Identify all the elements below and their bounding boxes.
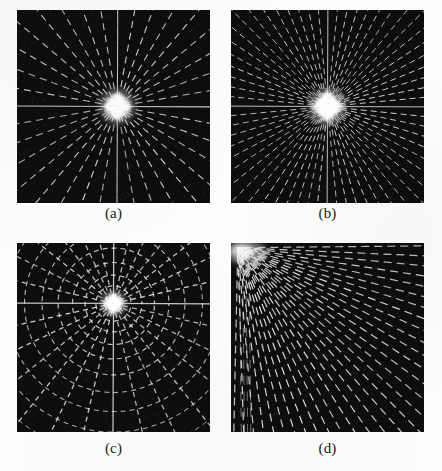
panel-a xyxy=(17,10,210,203)
panel-d-image xyxy=(231,243,424,432)
panel-b-image xyxy=(231,10,424,203)
panel-b-caption: (b) xyxy=(231,205,424,222)
panel-c-image xyxy=(17,243,210,432)
figure-container: (a) (b) (c) (d) xyxy=(0,0,442,471)
panel-a-caption: (a) xyxy=(17,205,210,222)
panel-c xyxy=(17,243,210,432)
panel-d-caption: (d) xyxy=(231,440,424,457)
panel-c-caption: (c) xyxy=(17,440,210,457)
panel-b xyxy=(231,10,424,203)
panel-a-image xyxy=(17,10,210,203)
panel-d xyxy=(231,243,424,432)
